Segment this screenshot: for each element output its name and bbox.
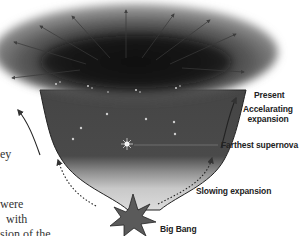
label-accelerating-line2: expansion [237, 114, 299, 124]
label-present: Present [254, 90, 284, 100]
body-text-fragment-2: were [0, 197, 23, 211]
label-accelerating-expansion: Accelarating expansion [237, 104, 299, 124]
cloud-present-universe [0, 4, 278, 100]
label-farthest-supernova: Farthest supernova [221, 140, 298, 150]
label-accelerating-line1: Accelarating [237, 104, 299, 114]
body-text-fragment-1: ey [0, 147, 11, 161]
body-text-fragment-3: with [6, 212, 27, 226]
label-slowing-expansion: Slowing expansion [196, 186, 271, 196]
body-text-fragment-4: sion of the [0, 227, 51, 236]
label-big-bang: Big Bang [160, 224, 197, 234]
